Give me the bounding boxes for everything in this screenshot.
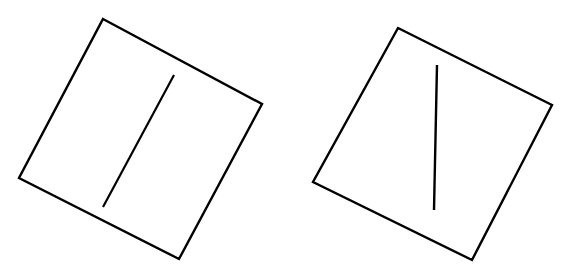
figure-canvas (0, 0, 573, 273)
figure-svg (0, 0, 573, 273)
